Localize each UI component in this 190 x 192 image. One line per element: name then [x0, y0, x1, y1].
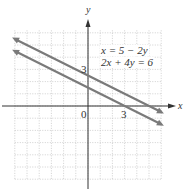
- coordinate-plane: [0, 0, 190, 192]
- y-tick-3-label: 3: [81, 64, 87, 75]
- equation-1-label: x = 5 − 2y: [100, 45, 149, 56]
- x-axis-arrow-icon: [168, 104, 176, 109]
- origin-label: 0: [81, 109, 87, 120]
- x-axis-label: x: [178, 101, 182, 111]
- equation-2-label: 2x + 4y = 6: [100, 57, 154, 68]
- y-axis-arrow-icon: [86, 19, 91, 27]
- y-axis-label: y: [86, 5, 90, 15]
- x-tick-3-label: 3: [121, 109, 127, 120]
